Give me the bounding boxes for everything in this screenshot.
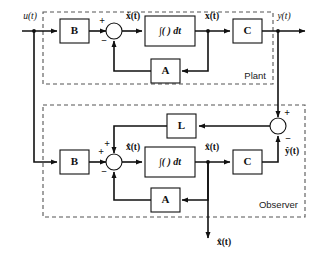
- block-plant-a-label: A: [162, 64, 170, 76]
- plant-sum-plus-sign: +: [99, 15, 105, 26]
- observer-summing-junction: [106, 154, 122, 170]
- diagram-canvas: B + − ẋ(t) ∫( ) dt x(t) A C y(t): [0, 0, 317, 257]
- block-observer-integrator-label: ∫( ) dt: [158, 156, 182, 168]
- signal-label-xhat-output: x̂(t): [217, 237, 231, 248]
- junction-dot-input: [32, 29, 36, 33]
- error-summing-junction: [270, 118, 286, 134]
- block-plant-b-label: B: [71, 24, 79, 36]
- state-observer-diagram: B + − ẋ(t) ∫( ) dt x(t) A C y(t): [0, 0, 317, 257]
- plant-sum-minus-sign: −: [101, 35, 107, 46]
- observer-region-label: Observer: [259, 199, 298, 210]
- block-observer-b-label: B: [71, 155, 79, 167]
- observer-sum-plus-top-sign: +: [104, 138, 110, 149]
- signal-label-xdot: ẋ(t): [126, 11, 140, 22]
- signal-label-xhat: x̂(t): [205, 142, 219, 153]
- error-sum-plus-sign: +: [284, 107, 290, 118]
- block-observer-l-label: L: [178, 119, 185, 131]
- observer-sum-plus-left-sign: +: [98, 146, 104, 157]
- signal-label-u: u(t): [23, 11, 37, 22]
- wire-input-branch-down: [34, 31, 57, 162]
- signal-label-xhatdot: x̂̇(t): [126, 142, 140, 153]
- signal-label-y: y(t): [276, 11, 290, 22]
- signal-label-x: x(t): [205, 11, 219, 22]
- signal-label-yhat: ŷ(t): [285, 146, 299, 157]
- plant-summing-junction: [106, 23, 122, 39]
- block-plant-c-label: C: [244, 24, 252, 36]
- block-observer-c-label: C: [244, 155, 252, 167]
- block-observer-a-label: A: [162, 193, 170, 205]
- wire-observer-c-to-error-sum: [262, 136, 278, 162]
- observer-sum-minus-sign: −: [101, 166, 107, 177]
- plant-region-label: Plant: [244, 70, 266, 81]
- block-plant-integrator-label: ∫( ) dt: [158, 25, 182, 37]
- error-sum-minus-sign: −: [285, 133, 291, 144]
